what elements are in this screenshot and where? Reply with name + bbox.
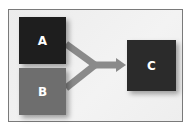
node-c-label: C — [147, 59, 156, 73]
arrow-b-segment — [66, 65, 95, 88]
node-a: A — [19, 17, 66, 64]
arrow-head-icon — [116, 58, 126, 72]
node-b: B — [19, 68, 66, 115]
node-c: C — [127, 40, 176, 91]
node-a-label: A — [38, 34, 47, 48]
arrow-a-segment — [66, 44, 95, 65]
node-b-label: B — [38, 85, 47, 99]
